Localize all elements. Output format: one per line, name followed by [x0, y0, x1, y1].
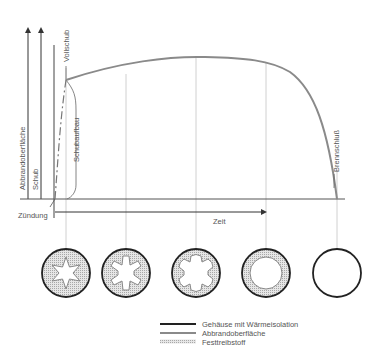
thrust-curve	[66, 57, 337, 199]
label-zuendung: Zündung	[18, 211, 48, 220]
rocket-thrust-diagram: Abbrandoberfläche Schub Vollschub Schuba…	[0, 0, 380, 360]
legend-propellant-label: Festtreibstoff	[202, 338, 246, 347]
cross-section-4	[242, 249, 290, 297]
circular-bore-icon	[250, 257, 282, 289]
legend: Gehäuse mit Wärmeisolation Abbrandoberfl…	[160, 320, 298, 347]
cross-section-1	[42, 249, 90, 297]
label-brennschluss: Brennschluß	[332, 129, 341, 172]
cross-section-5	[313, 249, 361, 297]
legend-casing-label: Gehäuse mit Wärmeisolation	[202, 320, 298, 329]
thrust-buildup-curve	[55, 80, 66, 199]
cross-section-2	[102, 249, 150, 297]
rounded-star-bore-icon	[179, 255, 213, 292]
legend-burn-surface-label: Abbrandoberfläche	[202, 329, 265, 338]
cross-section-3	[172, 249, 220, 297]
label-vollschub: Vollschub	[62, 30, 71, 62]
legend-propellant-swatch	[160, 340, 196, 344]
label-zeit: Zeit	[213, 217, 226, 226]
label-abbrandoberflaeche: Abbrandoberfläche	[18, 127, 27, 190]
label-schubaufbau: Schubaufbau	[72, 118, 81, 162]
label-schub: Schub	[31, 169, 40, 190]
empty-casing-icon	[313, 249, 361, 297]
gridlines	[66, 56, 337, 248]
